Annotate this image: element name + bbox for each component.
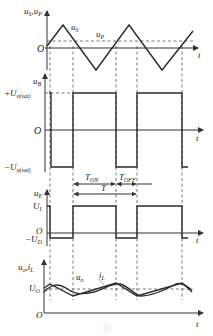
y-axis-label: uB [33,76,42,87]
t-label: t [198,50,201,60]
y-axis-label: uo,iL [18,262,34,273]
t-label: t [196,235,199,245]
uo-ripple-curve [44,283,192,296]
up-label: uP [96,29,105,40]
il-curve-label: iL [99,270,106,281]
y-axis-label: uS,uP [24,6,42,17]
plot-us-up: uS,uP O t uS uP [24,6,201,70]
pos-sat-label: +Uo(sat) [4,88,31,100]
uo-avg-label: UO [29,283,41,294]
dashed-guides [50,46,182,300]
ui-label: UI [33,201,43,212]
origin-label: O [34,125,41,136]
origin-label: O [36,310,43,320]
neg-sat-label: −Uo(sat) [4,162,31,174]
y-axis-label: uE [34,188,43,199]
us-label: uS [71,22,79,33]
plot-ub: uB +Uo(sat) −Uo(sat) O t TON TOFF T [4,74,203,194]
plot-uo-il: uo,iL UO O t uo iL [18,260,203,329]
uo-curve-label: uo [76,272,84,283]
il-ripple-curve [44,283,192,296]
t-label: t [196,133,199,143]
toff-label: TOFF [119,172,136,183]
switching-regulator-waveform-diagram: uS,uP O t uS uP uB +Uo(sat) −Uo(sat) O t… [0,0,213,336]
plot-ue: uE UI O −UD t [25,188,203,246]
origin-label: O [37,43,44,54]
figure-caption: 图 [0,322,213,333]
ton-label: TON [85,172,99,183]
